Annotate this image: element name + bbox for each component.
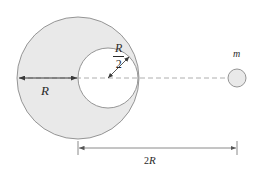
physics-figure: R R 2 m 2R: [0, 0, 258, 173]
point-mass-circle: [228, 69, 246, 87]
figure-canvas: [0, 0, 258, 173]
